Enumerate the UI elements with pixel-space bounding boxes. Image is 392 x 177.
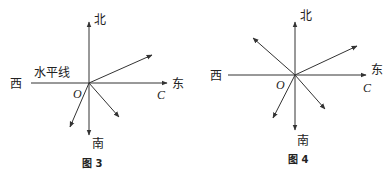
north-label: 北 — [94, 13, 106, 27]
origin-label: O — [276, 78, 285, 92]
figure-4: 北 南 东 西 O C 图 4 — [210, 9, 383, 165]
origin-label: O — [73, 87, 82, 101]
southeast-arrow — [89, 83, 119, 117]
east-label: 东 — [371, 63, 383, 77]
horizontal-line-label: 水平线 — [34, 66, 70, 80]
west-label: 西 — [210, 69, 222, 83]
northwest-arrow — [253, 38, 295, 75]
west-label: 西 — [10, 77, 22, 91]
south-label: 南 — [92, 136, 104, 151]
northeast-arrow — [89, 55, 152, 83]
south-label: 南 — [297, 133, 309, 148]
figure-caption: 图 3 — [82, 158, 102, 169]
figure-3: 北 南 东 西 水平线 O C 图 3 — [10, 13, 184, 169]
point-c-label: C — [363, 81, 372, 95]
southeast-arrow — [295, 75, 325, 109]
north-label: 北 — [300, 9, 312, 23]
direction-diagrams: 北 南 东 西 水平线 O C 图 3 北 南 东 西 O C 图 4 — [0, 0, 392, 177]
point-c-label: C — [157, 88, 166, 102]
east-label: 东 — [172, 77, 184, 91]
figure-caption: 图 4 — [288, 154, 308, 165]
northeast-arrow — [295, 46, 357, 75]
